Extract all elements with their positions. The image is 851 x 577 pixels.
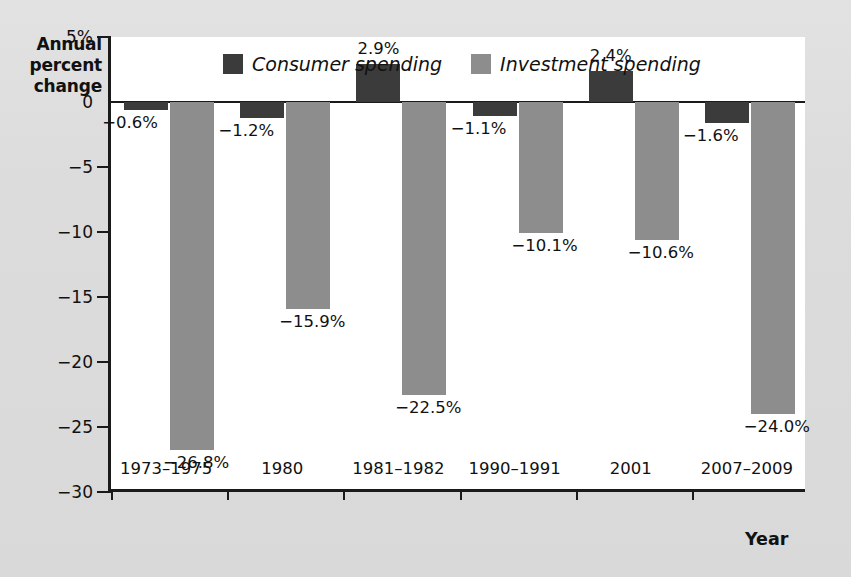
figure-background: Annual percent change 5%0−5−10−15−20−25−… [0,0,851,577]
y-tick-mark [97,296,111,298]
y-tick-mark [97,491,111,493]
bar-value-label-consumer-5: −1.6% [683,126,739,145]
bar-value-label-investment-2: −22.5% [395,398,461,417]
legend-item-consumer-spending: Consumer spending [223,53,442,75]
x-tick-mark-3 [460,489,462,500]
y-tick-mark [97,36,111,38]
plot-area: 5%0−5−10−15−20−25−30 −0.6%−26.8%−1.2%−15… [111,37,805,489]
bar-value-label-investment-1: −15.9% [279,312,345,331]
bar-investment-0 [170,102,214,450]
bar-value-label-investment-5: −24.0% [744,417,810,436]
y-tick-mark [97,231,111,233]
x-axis-title: Year [745,529,788,549]
legend-label-consumer: Consumer spending [252,53,442,75]
bar-value-label-consumer-1: −1.2% [218,121,274,140]
x-tick-mark-1 [227,489,229,500]
zero-baseline [111,101,805,103]
bar-value-label-consumer-3: −1.1% [451,119,507,138]
y-tick-label: −15 [57,287,93,307]
x-tick-mark-4 [576,489,578,500]
x-axis-label-1: 1980 [261,459,303,478]
y-tick-label: −30 [57,482,93,502]
bar-consumer-1 [240,102,284,118]
y-tick-mark [97,426,111,428]
x-tick-mark-0 [111,489,113,500]
legend-swatch-consumer-icon [223,54,243,74]
x-axis-label-3: 1990–1991 [468,459,560,478]
bar-consumer-5 [705,102,749,123]
bar-investment-4 [635,102,679,240]
bar-consumer-0 [124,102,168,110]
y-tick-label: −5 [68,157,93,177]
y-axis-title-line-2: percent [6,55,102,76]
x-axis-label-4: 2001 [610,459,652,478]
bar-investment-2 [402,102,446,395]
y-tick-mark [97,166,111,168]
bar-value-label-investment-4: −10.6% [628,243,694,262]
legend-swatch-investment-icon [471,54,491,74]
chart-legend: Consumer spending Investment spending [223,53,720,75]
y-tick-label: −25 [57,417,93,437]
x-tick-mark-2 [343,489,345,500]
x-axis-label-5: 2007–2009 [701,459,793,478]
x-axis-label-2: 1981–1982 [352,459,444,478]
x-tick-mark-5 [692,489,694,500]
y-tick-label: 0 [82,92,93,112]
legend-item-investment-spending: Investment spending [471,53,701,75]
y-tick-label: 5% [66,27,93,47]
bar-consumer-4 [589,71,633,102]
y-tick-label: −10 [57,222,93,242]
x-axis-label-0: 1973–1975 [120,459,212,478]
y-tick-mark [97,361,111,363]
bar-value-label-consumer-0: −0.6% [102,113,158,132]
plot-frame: 5%0−5−10−15−20−25−30 −0.6%−26.8%−1.2%−15… [108,37,805,492]
bar-investment-5 [751,102,795,414]
y-tick-label: −20 [57,352,93,372]
bar-investment-1 [286,102,330,309]
bar-consumer-3 [473,102,517,116]
bar-investment-3 [519,102,563,233]
legend-label-investment: Investment spending [500,53,701,75]
bar-value-label-investment-3: −10.1% [511,236,577,255]
